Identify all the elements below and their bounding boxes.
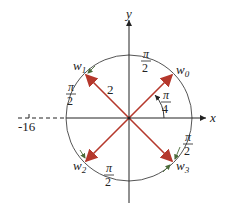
svg-text:π: π (143, 47, 150, 61)
neg-tick-label: -16 (18, 119, 36, 134)
arc-label-right: π 2 (183, 130, 193, 158)
vector-w2 (86, 118, 129, 161)
roots-of-unity-diagram: x -16 y 2 w0 w1 w2 w3 π 4 π 2 π 2 π 2 (0, 0, 229, 212)
svg-text:2: 2 (67, 94, 73, 108)
svg-text:π: π (163, 88, 170, 102)
angle-label-pi-4: π 4 (161, 88, 171, 116)
arc-label-left: π 2 (66, 80, 76, 108)
arc-arrow-w2 (80, 150, 85, 158)
radius-label: 2 (107, 82, 114, 97)
svg-text:2: 2 (184, 144, 190, 158)
svg-text:4: 4 (162, 102, 168, 116)
root-label-w3: w3 (176, 158, 190, 175)
svg-text:π: π (68, 80, 75, 94)
origin-point (127, 116, 130, 119)
y-axis-label: y (124, 6, 132, 21)
x-axis-label: x (209, 110, 216, 125)
root-label-w2: w2 (73, 158, 87, 175)
arc-arrow-w3 (163, 165, 170, 172)
arc-label-bottom: π 2 (104, 161, 114, 189)
svg-text:π: π (185, 130, 192, 144)
root-label-w0: w0 (176, 62, 190, 79)
svg-text:2: 2 (142, 61, 148, 75)
svg-text:2: 2 (105, 175, 111, 189)
vector-w3 (129, 118, 172, 161)
arc-label-top: π 2 (141, 47, 151, 75)
root-label-w1: w1 (73, 58, 86, 75)
svg-text:π: π (106, 161, 113, 175)
